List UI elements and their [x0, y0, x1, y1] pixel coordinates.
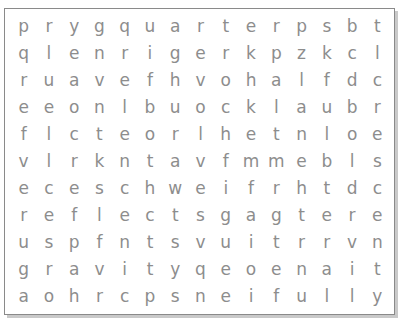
- letter-cell[interactable]: m: [264, 153, 289, 170]
- letter-cell[interactable]: c: [112, 288, 137, 305]
- letter-cell[interactable]: u: [137, 18, 162, 35]
- letter-cell[interactable]: h: [163, 72, 188, 89]
- letter-cell[interactable]: f: [238, 180, 263, 197]
- letter-cell[interactable]: o: [213, 72, 238, 89]
- letter-cell[interactable]: n: [112, 153, 137, 170]
- letter-cell[interactable]: f: [314, 72, 339, 89]
- letter-cell[interactable]: n: [289, 261, 314, 278]
- letter-cell[interactable]: l: [112, 99, 137, 116]
- letter-cell[interactable]: v: [87, 261, 112, 278]
- letter-cell[interactable]: e: [213, 261, 238, 278]
- letter-cell[interactable]: g: [163, 45, 188, 62]
- letter-cell[interactable]: e: [365, 126, 390, 143]
- letter-cell[interactable]: l: [188, 126, 213, 143]
- letter-cell[interactable]: e: [264, 261, 289, 278]
- letter-cell[interactable]: f: [137, 72, 162, 89]
- letter-cell[interactable]: o: [188, 99, 213, 116]
- letter-cell[interactable]: g: [11, 261, 36, 278]
- letter-cell[interactable]: q: [112, 18, 137, 35]
- letter-cell[interactable]: v: [188, 234, 213, 251]
- letter-cell[interactable]: l: [36, 45, 61, 62]
- letter-cell[interactable]: t: [163, 207, 188, 224]
- letter-cell[interactable]: u: [36, 72, 61, 89]
- letter-cell[interactable]: a: [238, 207, 263, 224]
- letter-cell[interactable]: p: [264, 45, 289, 62]
- letter-cell[interactable]: a: [163, 18, 188, 35]
- letter-cell[interactable]: t: [213, 18, 238, 35]
- letter-cell[interactable]: m: [238, 153, 263, 170]
- letter-cell[interactable]: r: [11, 72, 36, 89]
- letter-cell[interactable]: v: [339, 234, 364, 251]
- letter-cell[interactable]: r: [36, 18, 61, 35]
- letter-cell[interactable]: e: [36, 207, 61, 224]
- letter-cell[interactable]: v: [11, 153, 36, 170]
- letter-cell[interactable]: t: [264, 126, 289, 143]
- letter-cell[interactable]: f: [264, 288, 289, 305]
- letter-cell[interactable]: b: [339, 18, 364, 35]
- letter-cell[interactable]: e: [62, 45, 87, 62]
- letter-cell[interactable]: c: [213, 99, 238, 116]
- letter-cell[interactable]: d: [339, 180, 364, 197]
- letter-cell[interactable]: t: [365, 261, 390, 278]
- letter-cell[interactable]: l: [314, 288, 339, 305]
- letter-cell[interactable]: c: [62, 126, 87, 143]
- letter-cell[interactable]: s: [163, 234, 188, 251]
- letter-cell[interactable]: s: [365, 153, 390, 170]
- letter-cell[interactable]: r: [112, 45, 137, 62]
- letter-cell[interactable]: l: [87, 207, 112, 224]
- letter-cell[interactable]: l: [264, 99, 289, 116]
- letter-cell[interactable]: h: [213, 126, 238, 143]
- letter-cell[interactable]: n: [87, 45, 112, 62]
- letter-cell[interactable]: a: [62, 72, 87, 89]
- letter-cell[interactable]: l: [289, 72, 314, 89]
- letter-cell[interactable]: e: [238, 18, 263, 35]
- letter-cell[interactable]: c: [365, 180, 390, 197]
- letter-cell[interactable]: o: [238, 261, 263, 278]
- letter-cell[interactable]: u: [11, 234, 36, 251]
- letter-cell[interactable]: f: [87, 234, 112, 251]
- letter-cell[interactable]: e: [289, 153, 314, 170]
- letter-cell[interactable]: e: [112, 126, 137, 143]
- letter-cell[interactable]: v: [87, 72, 112, 89]
- letter-cell[interactable]: e: [11, 99, 36, 116]
- letter-cell[interactable]: a: [289, 99, 314, 116]
- letter-cell[interactable]: v: [188, 72, 213, 89]
- letter-cell[interactable]: s: [87, 180, 112, 197]
- letter-cell[interactable]: k: [238, 99, 263, 116]
- letter-cell[interactable]: d: [339, 72, 364, 89]
- letter-cell[interactable]: n: [87, 99, 112, 116]
- letter-cell[interactable]: o: [137, 126, 162, 143]
- letter-cell[interactable]: e: [188, 45, 213, 62]
- letter-cell[interactable]: a: [11, 288, 36, 305]
- letter-cell[interactable]: i: [238, 234, 263, 251]
- letter-cell[interactable]: b: [314, 153, 339, 170]
- letter-cell[interactable]: i: [213, 180, 238, 197]
- letter-cell[interactable]: l: [365, 45, 390, 62]
- letter-cell[interactable]: r: [188, 18, 213, 35]
- letter-cell[interactable]: e: [188, 180, 213, 197]
- letter-cell[interactable]: q: [11, 45, 36, 62]
- letter-cell[interactable]: i: [238, 288, 263, 305]
- letter-cell[interactable]: e: [62, 180, 87, 197]
- letter-cell[interactable]: n: [112, 234, 137, 251]
- letter-cell[interactable]: b: [339, 99, 364, 116]
- letter-cell[interactable]: y: [163, 261, 188, 278]
- letter-cell[interactable]: a: [62, 261, 87, 278]
- letter-cell[interactable]: p: [11, 18, 36, 35]
- letter-cell[interactable]: e: [36, 99, 61, 116]
- letter-cell[interactable]: t: [264, 234, 289, 251]
- letter-cell[interactable]: h: [62, 288, 87, 305]
- letter-cell[interactable]: f: [213, 153, 238, 170]
- letter-cell[interactable]: s: [314, 18, 339, 35]
- letter-cell[interactable]: s: [163, 288, 188, 305]
- letter-cell[interactable]: i: [137, 45, 162, 62]
- letter-cell[interactable]: c: [36, 180, 61, 197]
- letter-cell[interactable]: t: [137, 153, 162, 170]
- letter-cell[interactable]: n: [289, 126, 314, 143]
- letter-cell[interactable]: l: [36, 153, 61, 170]
- letter-cell[interactable]: r: [264, 180, 289, 197]
- letter-cell[interactable]: g: [87, 18, 112, 35]
- letter-cell[interactable]: r: [62, 153, 87, 170]
- letter-cell[interactable]: u: [163, 99, 188, 116]
- letter-cell[interactable]: o: [62, 99, 87, 116]
